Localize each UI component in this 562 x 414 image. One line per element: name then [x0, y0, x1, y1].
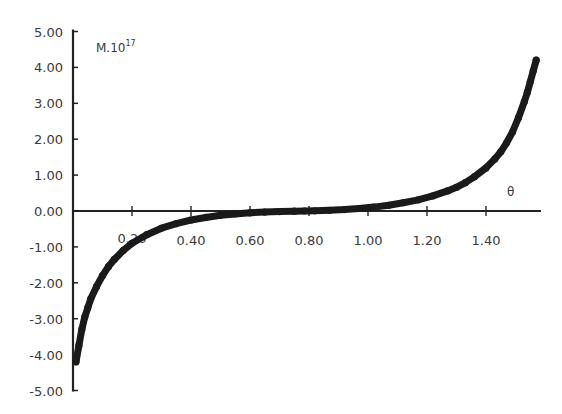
y-tick-label: 3.00 — [34, 96, 63, 111]
data-point — [533, 57, 540, 64]
data-point — [217, 212, 224, 219]
y-tick-label: -2.00 — [29, 276, 63, 291]
x-tick-label: 0.40 — [177, 233, 206, 248]
data-point — [415, 196, 422, 203]
data-point — [400, 199, 407, 206]
y-tick-label: 1.00 — [34, 168, 63, 183]
data-point — [301, 207, 308, 214]
data-point — [81, 313, 88, 320]
data-point — [261, 208, 268, 215]
y-tick-label: 5.00 — [34, 25, 63, 40]
data-point — [482, 164, 489, 171]
x-tick-label: 1.40 — [472, 233, 501, 248]
y-tick-label: -3.00 — [29, 312, 63, 327]
y-tick-label: 2.00 — [34, 132, 63, 147]
data-point — [72, 358, 79, 365]
data-point — [530, 67, 537, 74]
data-point — [326, 207, 333, 214]
data-point — [202, 214, 209, 221]
data-point — [187, 216, 194, 223]
data-point — [93, 283, 100, 290]
data-point — [462, 179, 469, 186]
data-point — [87, 295, 94, 302]
x-tick-label: 1.00 — [354, 233, 383, 248]
data-point — [105, 263, 112, 270]
data-point — [84, 304, 91, 311]
data-point — [276, 208, 283, 215]
y-axis-label: M.1017 — [96, 39, 136, 55]
y-tick-label: -4.00 — [29, 348, 63, 363]
data-point — [111, 256, 118, 263]
data-point — [471, 173, 478, 180]
data-point — [75, 342, 82, 349]
data-point — [509, 128, 516, 135]
data-point — [232, 210, 239, 217]
data-point — [246, 209, 253, 216]
y-axis-label-base: M.10 — [96, 41, 125, 55]
data-point — [311, 207, 318, 214]
data-point — [453, 184, 460, 191]
y-axis-label-exponent: 17 — [125, 39, 135, 48]
data-point — [497, 148, 504, 155]
data-point — [356, 205, 363, 212]
data-point — [99, 272, 106, 279]
data-point — [515, 114, 522, 121]
data-point — [521, 98, 528, 105]
x-tick-label: 0.80 — [295, 233, 324, 248]
y-tick-label: 4.00 — [34, 60, 63, 75]
x-tick-label: 0.60 — [236, 233, 265, 248]
data-point — [444, 187, 451, 194]
y-tick-label: -5.00 — [29, 384, 63, 399]
data-point — [158, 225, 165, 232]
data-point — [527, 78, 534, 85]
data-point — [128, 240, 135, 247]
y-axis: 5.004.003.002.001.000.00-1.00-2.00-3.00-… — [29, 25, 78, 399]
data-point — [491, 155, 498, 162]
data-point — [120, 247, 127, 254]
data-point — [173, 220, 180, 227]
data-point — [429, 192, 436, 199]
data-point — [370, 203, 377, 210]
chart-canvas: 5.004.003.002.001.000.00-1.00-2.00-3.00-… — [0, 0, 562, 414]
data-point — [78, 326, 85, 333]
x-tick-label: 1.20 — [413, 233, 442, 248]
data-point — [524, 89, 531, 96]
y-tick-label: -1.00 — [29, 240, 63, 255]
data-point — [291, 208, 298, 215]
data-point — [503, 139, 510, 146]
data-point — [385, 202, 392, 209]
data-point — [143, 231, 150, 238]
y-tick-label: 0.00 — [34, 204, 63, 219]
x-axis-label: θ — [507, 185, 514, 199]
data-point — [341, 206, 348, 213]
